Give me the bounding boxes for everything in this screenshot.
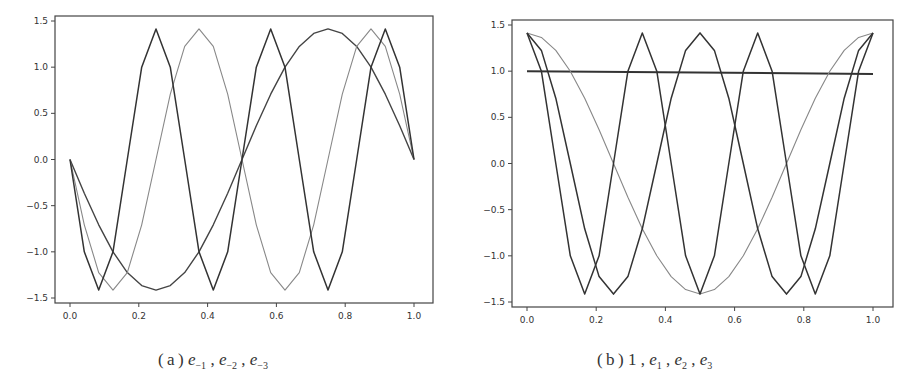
chart-panel-a: 1.51.00.50.0−0.5−1.0−1.50.00.20.40.60.81…	[26, 16, 433, 321]
y-tick-label: −1.0	[26, 247, 48, 257]
x-tick-label: 0.6	[269, 311, 284, 321]
caption-term: e1	[649, 350, 662, 369]
y-tick-label: −1.5	[483, 297, 505, 307]
x-tick-label: 0.0	[63, 311, 78, 321]
figure-canvas: 1.51.00.50.0−0.5−1.0−1.50.00.20.40.60.81…	[0, 0, 899, 390]
y-tick-label: 1.0	[491, 66, 506, 76]
caption-term: e−3	[250, 350, 268, 369]
y-tick-label: −0.5	[26, 201, 48, 211]
y-tick-label: 0.5	[34, 108, 48, 118]
x-tick-label: 0.0	[520, 315, 535, 325]
chart-panel-b: 1.51.00.50.0−0.5−1.0−1.50.00.20.40.60.81…	[483, 20, 893, 325]
x-tick-label: 0.2	[132, 311, 146, 321]
caption-term: 1	[628, 350, 637, 369]
caption-term: e2	[674, 350, 687, 369]
plot-frame	[55, 16, 433, 303]
x-tick-label: 0.2	[589, 315, 603, 325]
y-tick-label: −1.0	[483, 251, 505, 261]
caption-label: ( a )	[158, 350, 184, 369]
series-line-e_-3	[70, 29, 414, 290]
x-tick-label: 1.0	[407, 311, 422, 321]
y-tick-label: −0.5	[483, 205, 505, 215]
caption-a: ( a ) e−1 , e−2 , e−3	[158, 350, 268, 371]
y-tick-label: 1.5	[34, 16, 48, 26]
caption-term: e−1	[188, 350, 206, 369]
y-tick-label: 1.0	[34, 62, 49, 72]
caption-b: ( b ) 1 , e1 , e2 , e3	[597, 350, 712, 371]
series-line-1	[527, 71, 873, 74]
x-tick-label: 0.6	[727, 315, 742, 325]
y-tick-label: 0.5	[491, 112, 505, 122]
y-tick-label: 1.5	[491, 20, 505, 30]
x-tick-label: 0.8	[797, 315, 812, 325]
caption-term: e3	[700, 350, 713, 369]
x-tick-label: 1.0	[866, 315, 881, 325]
x-tick-label: 0.4	[200, 311, 215, 321]
caption-label: ( b )	[597, 350, 624, 369]
x-tick-label: 0.4	[658, 315, 673, 325]
y-tick-label: 0.0	[34, 155, 49, 165]
y-tick-label: −1.5	[26, 293, 48, 303]
y-tick-label: 0.0	[491, 159, 506, 169]
x-tick-label: 0.8	[338, 311, 353, 321]
caption-term: e−2	[219, 350, 237, 369]
